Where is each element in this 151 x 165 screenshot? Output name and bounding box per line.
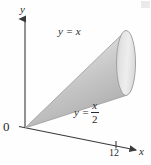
- y-axis-label: y: [20, 4, 25, 15]
- cone-figure: y x 0 12 y = x y = x 2: [0, 0, 151, 165]
- upper-curve-label: y = x: [58, 26, 81, 37]
- cone-base-ellipse: [117, 31, 136, 96]
- lower-curve-denominator: 2: [91, 114, 99, 125]
- origin-label: 0: [3, 120, 10, 133]
- x-tick-label-12: 12: [109, 148, 119, 158]
- page-corner-artifact: [141, 1, 150, 8]
- lower-curve-numerator: x: [91, 100, 98, 111]
- x-axis-label: x: [139, 146, 144, 157]
- lower-curve-fraction: x 2: [91, 100, 99, 125]
- lower-curve-label-prefix: y =: [74, 107, 89, 118]
- lower-curve-label: y = x 2: [74, 100, 99, 125]
